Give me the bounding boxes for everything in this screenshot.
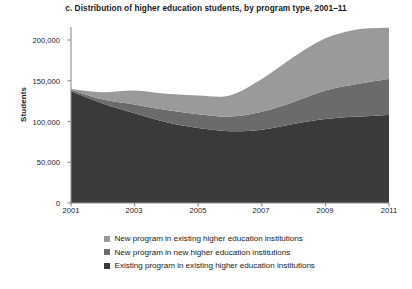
x-tick-label-2001: 2001 [51, 206, 91, 215]
legend-item-new-program-existing-institutions[interactable]: New program in existing higher education… [104, 232, 404, 246]
stacked-area-plot [0, 0, 412, 225]
x-tick-label-2003: 2003 [114, 206, 154, 215]
y-tick-label-50000: 50,000 [12, 158, 60, 167]
legend-swatch-existing-program-existing-institutions [104, 263, 110, 269]
y-tick-label-150000: 150,000 [12, 77, 60, 86]
legend-swatch-new-program-existing-institutions [104, 236, 110, 242]
x-tick-label-2005: 2005 [178, 206, 218, 215]
figure-panel: c. Distribution of higher education stud… [0, 0, 412, 289]
chart-legend: New program in existing higher education… [104, 232, 404, 273]
legend-label-existing-program-existing-institutions: Existing program in existing higher educ… [115, 261, 315, 270]
legend-item-existing-program-existing-institutions[interactable]: Existing program in existing higher educ… [104, 259, 404, 273]
x-tick-label-2009: 2009 [305, 206, 345, 215]
legend-item-new-program-new-institutions[interactable]: New program in new higher education inst… [104, 246, 404, 260]
y-tick-label-100000: 100,000 [12, 118, 60, 127]
legend-swatch-new-program-new-institutions [104, 249, 110, 255]
legend-label-new-program-existing-institutions: New program in existing higher education… [115, 234, 303, 243]
area-series-group [71, 28, 389, 203]
x-tick-label-2011: 2011 [369, 206, 409, 215]
plot-area-wrapper: Students 200,000 150,000 100,000 50,000 … [0, 0, 412, 225]
legend-label-new-program-new-institutions: New program in new higher education inst… [115, 248, 291, 257]
y-tick-label-200000: 200,000 [12, 36, 60, 45]
x-tick-label-2007: 2007 [241, 206, 281, 215]
